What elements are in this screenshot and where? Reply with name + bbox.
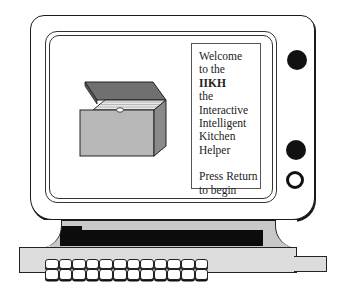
power-button-icon[interactable] (286, 171, 304, 189)
key[interactable] (113, 269, 127, 280)
control-knob-top[interactable] (287, 50, 307, 70)
key[interactable] (154, 269, 168, 280)
spacer (199, 157, 256, 170)
welcome-line: to the (199, 63, 256, 76)
key[interactable] (59, 259, 73, 269)
key[interactable] (72, 269, 86, 280)
key[interactable] (140, 269, 154, 280)
keyboard-extension (294, 256, 327, 272)
press-return-prompt: to begin (199, 184, 256, 197)
control-knob-middle[interactable] (286, 140, 306, 160)
welcome-line: Intelligent (199, 117, 256, 130)
key[interactable] (86, 259, 100, 269)
welcome-line: Interactive (199, 104, 256, 117)
app-name: IIKH (199, 77, 256, 90)
open-box-icon (75, 80, 170, 160)
key[interactable] (127, 259, 141, 269)
key[interactable] (154, 259, 168, 269)
key[interactable] (113, 259, 127, 269)
press-return-prompt: Press Return (199, 170, 256, 183)
welcome-line: Kitchen (199, 130, 256, 143)
key[interactable] (99, 259, 113, 269)
key[interactable] (59, 269, 73, 280)
key[interactable] (181, 269, 195, 280)
key[interactable] (195, 269, 209, 280)
key[interactable] (167, 269, 181, 280)
key[interactable] (86, 269, 100, 280)
key[interactable] (45, 269, 59, 280)
welcome-line: Welcome (199, 50, 256, 63)
welcome-line: the (199, 90, 256, 103)
key[interactable] (99, 269, 113, 280)
welcome-line: Helper (199, 144, 256, 157)
key[interactable] (140, 259, 154, 269)
key[interactable] (181, 259, 195, 269)
key[interactable] (45, 259, 59, 269)
key[interactable] (195, 259, 209, 269)
key[interactable] (72, 259, 86, 269)
stand-shadow-tab (60, 226, 82, 246)
key[interactable] (167, 259, 181, 269)
welcome-panel: Welcome to the IIKH the Interactive Inte… (191, 43, 261, 189)
keyboard-keys[interactable] (45, 259, 215, 281)
key[interactable] (127, 269, 141, 280)
stand-shadow (60, 230, 263, 246)
